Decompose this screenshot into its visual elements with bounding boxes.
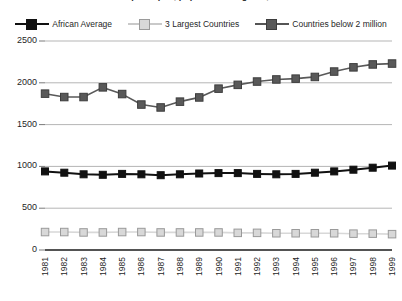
- x-axis-label-1985: 1985: [117, 257, 127, 276]
- data-point[interactable]: [99, 84, 107, 92]
- data-point[interactable]: [234, 229, 242, 237]
- x-axis-label-1999: 1999: [387, 257, 397, 276]
- y-axis-label-1000: 1000: [7, 160, 37, 170]
- data-point[interactable]: [80, 229, 88, 237]
- data-point[interactable]: [41, 228, 49, 236]
- x-axis-label-1989: 1989: [194, 257, 204, 276]
- x-axis-label-1981: 1981: [40, 257, 50, 276]
- data-point[interactable]: [273, 76, 281, 84]
- data-point[interactable]: [41, 90, 49, 98]
- data-point[interactable]: [311, 73, 319, 81]
- x-axis-label-1993: 1993: [271, 257, 281, 276]
- data-point[interactable]: [61, 93, 69, 101]
- y-axis-label-2500: 2500: [7, 35, 37, 45]
- data-point[interactable]: [369, 61, 377, 68]
- data-point[interactable]: [196, 170, 203, 177]
- data-point[interactable]: [118, 90, 126, 98]
- y-axis-label-1500: 1500: [7, 119, 37, 129]
- data-point[interactable]: [311, 230, 319, 238]
- x-axis-label-1990: 1990: [214, 257, 224, 276]
- x-axis-label-1984: 1984: [98, 257, 108, 276]
- data-point[interactable]: [99, 229, 107, 237]
- data-point[interactable]: [292, 230, 300, 238]
- data-point[interactable]: [253, 229, 260, 237]
- data-point[interactable]: [61, 228, 69, 236]
- data-point[interactable]: [292, 75, 300, 83]
- data-point[interactable]: [388, 60, 396, 68]
- data-point[interactable]: [253, 78, 260, 86]
- data-point[interactable]: [196, 229, 204, 237]
- data-point[interactable]: [176, 171, 183, 178]
- data-point[interactable]: [254, 170, 261, 177]
- x-axis-label-1997: 1997: [348, 257, 358, 276]
- x-axis-label-1994: 1994: [291, 257, 301, 276]
- data-point[interactable]: [311, 169, 318, 176]
- data-point[interactable]: [350, 64, 358, 72]
- plot-svg: [0, 0, 402, 301]
- y-axis-label-500: 500: [7, 202, 37, 212]
- data-point[interactable]: [292, 170, 299, 177]
- data-point[interactable]: [196, 94, 204, 102]
- x-axis-label-1992: 1992: [252, 257, 262, 276]
- data-point[interactable]: [215, 85, 223, 93]
- data-point[interactable]: [369, 230, 377, 238]
- data-point[interactable]: [273, 171, 280, 178]
- x-axis-label-1998: 1998: [368, 257, 378, 276]
- data-point[interactable]: [369, 164, 376, 171]
- data-point[interactable]: [389, 162, 396, 169]
- x-axis-label-1988: 1988: [175, 257, 185, 276]
- y-axis-label-0: 0: [7, 244, 37, 254]
- data-point[interactable]: [119, 170, 126, 177]
- data-point[interactable]: [331, 168, 338, 175]
- x-axis-label-1991: 1991: [233, 257, 243, 276]
- data-point[interactable]: [388, 230, 396, 238]
- data-point[interactable]: [42, 168, 49, 175]
- data-point[interactable]: [138, 101, 146, 109]
- data-point[interactable]: [176, 229, 184, 237]
- data-point[interactable]: [234, 170, 241, 177]
- data-point[interactable]: [80, 93, 88, 101]
- data-point[interactable]: [118, 228, 126, 236]
- data-point[interactable]: [157, 104, 165, 112]
- data-point[interactable]: [80, 171, 87, 178]
- data-point[interactable]: [99, 171, 106, 178]
- x-axis-label-1987: 1987: [156, 257, 166, 276]
- data-point[interactable]: [61, 169, 68, 176]
- x-axis-label-1983: 1983: [79, 257, 89, 276]
- data-point[interactable]: [234, 81, 242, 89]
- chart-container: Real GDP per capita, population weighted…: [0, 0, 402, 301]
- data-point[interactable]: [138, 171, 145, 178]
- x-axis-label-1996: 1996: [329, 257, 339, 276]
- x-axis-label-1995: 1995: [310, 257, 320, 276]
- data-point[interactable]: [215, 229, 223, 237]
- data-point[interactable]: [157, 172, 164, 179]
- data-point[interactable]: [330, 230, 338, 238]
- data-point[interactable]: [273, 230, 281, 238]
- y-axis-label-2000: 2000: [7, 77, 37, 87]
- x-axis-label-1986: 1986: [136, 257, 146, 276]
- data-point[interactable]: [330, 68, 338, 76]
- data-point[interactable]: [350, 166, 357, 173]
- data-point[interactable]: [157, 229, 165, 237]
- data-point[interactable]: [215, 170, 222, 177]
- x-axis-label-1982: 1982: [59, 257, 69, 276]
- data-point[interactable]: [350, 230, 358, 238]
- data-point[interactable]: [176, 98, 184, 106]
- plot-area: 05001000150020002500 1981198219831984198…: [0, 0, 402, 301]
- data-point[interactable]: [138, 228, 146, 236]
